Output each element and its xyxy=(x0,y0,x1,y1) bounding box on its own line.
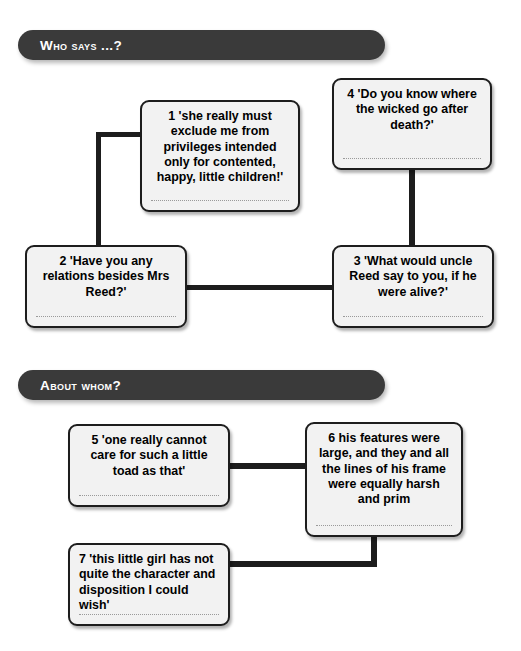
connector-2-to-3 xyxy=(186,285,333,290)
question-box-1-quote: 'she really must exclude me from privile… xyxy=(157,109,284,184)
question-box-7-quote: 'this little girl has not quite the char… xyxy=(79,552,215,612)
question-box-3-answer-line[interactable] xyxy=(343,316,483,317)
question-box-3-number: 3 xyxy=(354,254,361,268)
question-box-5[interactable]: 5 'one really cannot care for such a lit… xyxy=(68,424,230,507)
section-title-about-whom: About whom? xyxy=(40,378,121,393)
question-box-6-text: 6 his features were large, and they and … xyxy=(316,431,452,507)
question-box-4-number: 4 xyxy=(347,87,354,101)
question-box-2-number: 2 xyxy=(59,254,66,268)
question-box-5-number: 5 xyxy=(91,433,98,447)
question-box-4-quote: 'Do you know where the wicked go after d… xyxy=(356,87,477,132)
section-header-who-says: Who says ...? xyxy=(18,30,385,60)
question-box-7-number: 7 xyxy=(79,552,86,566)
question-box-6-number: 6 xyxy=(328,431,335,445)
question-box-6-answer-line[interactable] xyxy=(316,525,452,526)
question-box-4[interactable]: 4 'Do you know where the wicked go after… xyxy=(332,78,492,170)
question-box-2[interactable]: 2 'Have you any relations besides Mrs Re… xyxy=(25,245,187,328)
question-box-5-quote: 'one really cannot care for such a littl… xyxy=(90,433,207,478)
question-box-7[interactable]: 7 'this little girl has not quite the ch… xyxy=(68,543,230,626)
question-box-5-text: 5 'one really cannot care for such a lit… xyxy=(79,433,219,479)
question-box-3[interactable]: 3 'What would uncle Reed say to you, if … xyxy=(332,245,494,328)
connector-6-to-7-horizontal xyxy=(228,561,377,567)
question-box-6-quote: his features were large, and they and al… xyxy=(319,431,449,506)
question-box-2-answer-line[interactable] xyxy=(36,316,176,317)
question-box-1[interactable]: 1 'she really must exclude me from privi… xyxy=(140,100,300,212)
question-box-7-answer-line[interactable] xyxy=(79,614,219,615)
question-box-3-text: 3 'What would uncle Reed say to you, if … xyxy=(343,254,483,300)
section-header-about-whom: About whom? xyxy=(18,370,385,400)
question-box-1-answer-line[interactable] xyxy=(151,200,289,201)
question-box-1-number: 1 xyxy=(168,109,175,123)
question-box-3-quote: 'What would uncle Reed say to you, if he… xyxy=(349,254,476,299)
section-title-who-says: Who says ...? xyxy=(40,38,122,53)
connector-5-to-6 xyxy=(228,463,307,469)
question-box-5-answer-line[interactable] xyxy=(79,495,219,496)
question-box-7-text: 7 'this little girl has not quite the ch… xyxy=(79,552,219,613)
question-box-2-text: 2 'Have you any relations besides Mrs Re… xyxy=(36,254,176,300)
question-box-1-text: 1 'she really must exclude me from privi… xyxy=(151,109,289,185)
question-box-6[interactable]: 6 his features were large, and they and … xyxy=(305,422,463,537)
question-box-4-answer-line[interactable] xyxy=(343,158,481,159)
connector-1-to-2-horizontal xyxy=(96,132,140,137)
question-box-4-text: 4 'Do you know where the wicked go after… xyxy=(343,87,481,133)
connector-1-to-2-vertical xyxy=(96,132,101,248)
connector-4-to-3 xyxy=(409,168,415,246)
